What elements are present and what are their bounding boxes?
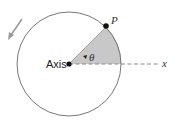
point-p [103,23,109,29]
point-p-label: P [110,14,118,26]
axis-label: Axis [46,58,67,70]
axis-point [66,61,71,66]
x-axis-label: x [161,57,167,69]
theta-label: θ [89,51,95,63]
rotation-diagram: Axis P θ x [0,0,177,126]
rotation-direction-arrow-icon [8,19,22,40]
angle-sector [69,27,121,64]
